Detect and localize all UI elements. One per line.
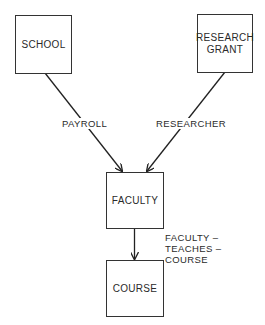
entity-label: SCHOOL — [21, 39, 65, 51]
entity-research-grant: RESEARCH GRANT — [197, 14, 253, 73]
relationship-label-faculty-teaches-course: FACULTY – TEACHES – COURSE — [165, 232, 221, 265]
entity-label: COURSE — [113, 283, 158, 295]
relationship-label-researcher: RESEARCHER — [155, 118, 227, 129]
relationship-label-payroll: PAYROLL — [61, 118, 108, 129]
entity-label: RESEARCH GRANT — [196, 32, 254, 56]
entity-school: SCHOOL — [15, 15, 72, 74]
entity-faculty: FACULTY — [106, 172, 164, 229]
entity-course: COURSE — [106, 260, 164, 317]
entity-label: FACULTY — [112, 195, 158, 207]
